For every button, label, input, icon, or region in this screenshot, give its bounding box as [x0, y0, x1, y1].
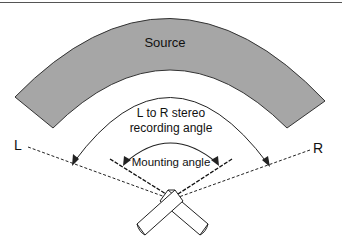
mounting-angle-label: Mounting angle — [0, 156, 342, 168]
recording-angle-line2: recording angle — [0, 121, 342, 136]
left-axis-line — [28, 147, 168, 198]
recording-angle-line1: L to R stereo — [0, 106, 342, 121]
source-label: Source — [0, 35, 330, 50]
stereo-mic-diagram: Source L to R stereo recording angle Mou… — [0, 0, 342, 245]
recording-angle-label: L to R stereo recording angle — [0, 106, 342, 136]
left-channel-label: L — [14, 137, 22, 153]
right-channel-label: R — [313, 140, 323, 156]
microphone-pair — [137, 190, 208, 235]
